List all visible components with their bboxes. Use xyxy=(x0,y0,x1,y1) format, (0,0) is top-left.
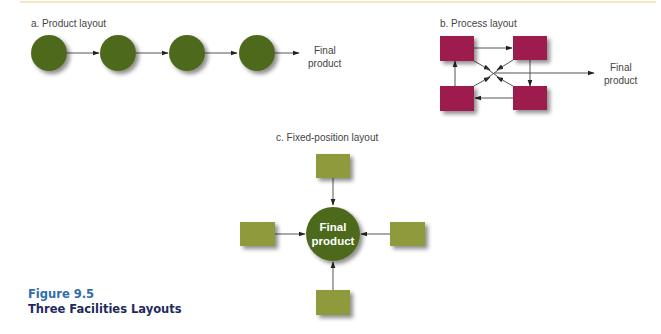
flow-arrow xyxy=(497,60,513,70)
workstation-circle xyxy=(239,35,275,71)
final-product-label: product xyxy=(308,58,342,69)
department-box xyxy=(513,86,547,110)
final-product-label: Final xyxy=(610,62,632,73)
department-box xyxy=(440,36,474,61)
fixed-position-layout-label: c. Fixed-position layout xyxy=(276,132,378,143)
fixed-position-layout-panel: c. Fixed-position layout Final product xyxy=(240,132,425,315)
department-box xyxy=(513,36,547,60)
product-layout-panel: a. Product layout Final product xyxy=(31,18,342,71)
figure-caption: Figure 9.5 Three Facilities Layouts xyxy=(28,287,182,317)
figure-title: Three Facilities Layouts xyxy=(28,302,182,317)
final-product-center-label: product xyxy=(312,235,355,247)
process-layout-label: b. Process layout xyxy=(440,18,517,29)
final-product-circle xyxy=(306,207,360,261)
final-product-label: product xyxy=(604,75,638,86)
resource-box xyxy=(316,154,350,178)
resource-box xyxy=(316,290,350,315)
final-product-label: Final xyxy=(314,45,336,56)
workstation-circle xyxy=(100,35,136,71)
department-box xyxy=(440,86,474,111)
final-product-center-label: Final xyxy=(320,221,347,233)
resource-box xyxy=(240,222,275,246)
facilities-layouts-diagram: a. Product layout Final product b. Proce… xyxy=(0,0,661,334)
resource-box xyxy=(390,222,425,246)
product-layout-label: a. Product layout xyxy=(31,18,106,29)
workstation-circle xyxy=(31,35,67,71)
process-layout-panel: b. Process layout Final product xyxy=(440,18,638,111)
figure-number: Figure 9.5 xyxy=(28,287,182,302)
workstation-circle xyxy=(169,35,205,71)
